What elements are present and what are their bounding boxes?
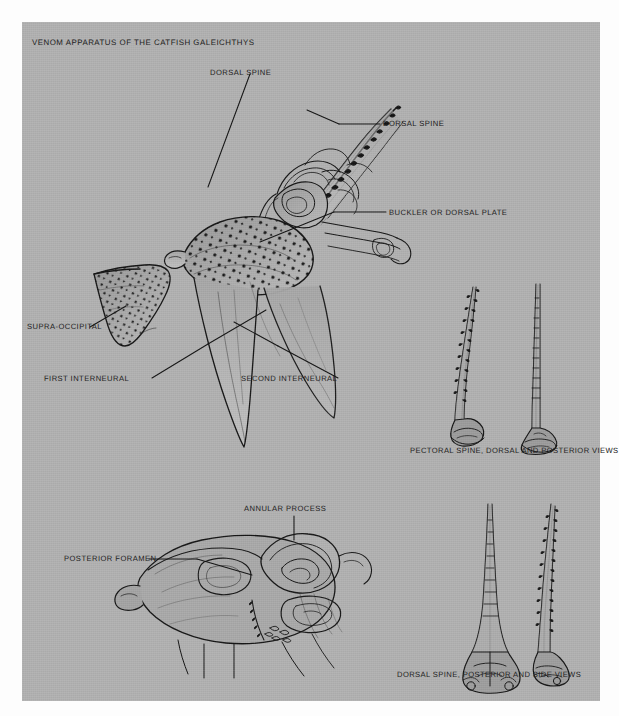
plate-page: VENOM APPARATUS OF THE CATFISH GALEICHTH…: [0, 0, 619, 716]
caption-dorsal-spine: DORSAL SPINE, POSTERIOR AND SIDE VIEWS: [397, 670, 581, 679]
dorsal-spines-figure: [22, 22, 600, 701]
printed-plate: VENOM APPARATUS OF THE CATFISH GALEICHTH…: [22, 22, 600, 701]
